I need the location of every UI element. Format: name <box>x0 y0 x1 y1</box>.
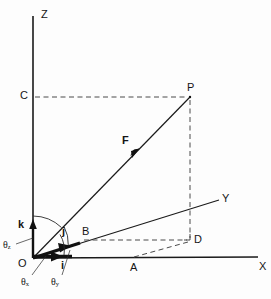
angle-label-theta-z: θz <box>3 240 11 251</box>
point-label-p: P <box>187 82 194 93</box>
dashed-a-to-d <box>134 242 188 257</box>
unit-vector-label-j: j <box>62 226 65 237</box>
point-marker-p <box>189 96 191 98</box>
angle-label-theta-y: θy <box>51 277 59 288</box>
unit-vector-label-i: i <box>61 260 64 271</box>
unit-vector-k-arrowhead <box>29 219 37 229</box>
leader-theta-z <box>16 238 33 244</box>
vector-diagram-figure: Z X Y O P C D A B k j i F θz θx θy <box>0 0 271 299</box>
point-label-b: B <box>82 226 89 237</box>
unit-vector-label-k: k <box>18 219 24 230</box>
theta-x-subscript: x <box>26 280 29 287</box>
point-label-c: C <box>20 90 28 101</box>
angle-arc-theta-z <box>33 216 62 228</box>
angle-label-theta-x: θx <box>21 277 29 288</box>
point-label-o: O <box>18 258 27 269</box>
axis-label-y: Y <box>222 193 229 204</box>
theta-y-subscript: y <box>56 280 59 287</box>
force-vector-label-f: F <box>122 135 129 146</box>
corner-mark-d <box>184 234 190 240</box>
axis-label-x: X <box>259 261 266 272</box>
axis-label-z: Z <box>41 9 48 20</box>
theta-z-subscript: z <box>8 243 11 250</box>
point-label-a: A <box>130 262 137 273</box>
point-label-d: D <box>194 234 202 245</box>
force-vector-arrow-barb <box>131 149 140 159</box>
diagram-canvas <box>0 0 271 299</box>
